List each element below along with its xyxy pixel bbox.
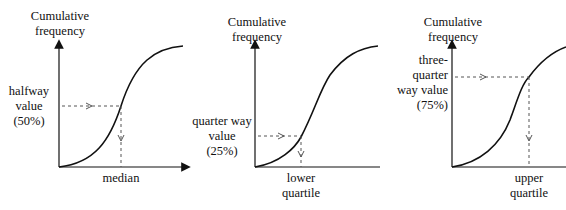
ogive-curve — [255, 46, 378, 167]
y-axis-label: Cumulative frequency — [423, 15, 483, 45]
x-axis-label: median — [96, 171, 146, 186]
ogive-curve — [452, 47, 566, 167]
panel-median — [59, 44, 186, 167]
x-axis-label: upper quartile — [504, 171, 554, 201]
y-axis-label: Cumulative frequency — [227, 15, 287, 45]
x-axis-label: lower quartile — [276, 171, 326, 201]
level-label: halfway value (50%) — [4, 84, 54, 129]
level-label: three- quarter way value (75%) — [390, 53, 448, 113]
panel-upper-quartile — [452, 44, 566, 167]
y-axis-label: Cumulative frequency — [30, 9, 90, 39]
level-label: quarter way value (25%) — [190, 114, 254, 159]
panel-lower-quartile — [255, 44, 380, 167]
